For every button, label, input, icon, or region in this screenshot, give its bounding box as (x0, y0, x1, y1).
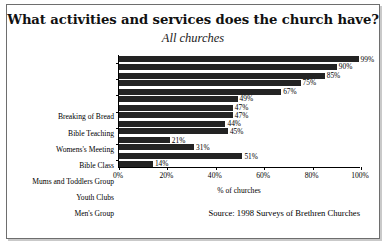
y-axis-label: Breaking of Bread (58, 113, 114, 121)
bar-value-label: 45% (230, 128, 244, 135)
x-axis-tick-label: 0% (113, 171, 123, 180)
x-axis-tick-label: 60% (256, 171, 270, 180)
bar (119, 121, 225, 127)
source-note: Source: 1998 Surveys of Brethren Churche… (208, 208, 360, 218)
bar-value-label: 99% (361, 56, 375, 63)
x-axis-tick (119, 167, 120, 170)
y-axis-label: Youth Clubs (76, 194, 114, 202)
bar (119, 80, 301, 86)
bar-value-label: 67% (283, 88, 297, 95)
x-axis-tick (361, 167, 362, 170)
x-axis-tick-label: 20% (159, 171, 173, 180)
bar-value-label: 85% (327, 72, 341, 79)
x-axis-tick (216, 167, 217, 170)
bar (119, 64, 337, 70)
y-axis-label: Mums and Toddlers Group (32, 178, 114, 186)
bar (119, 144, 194, 150)
chart-title: What activities and services does the ch… (0, 12, 386, 27)
y-axis-label: Bible Class (79, 162, 114, 170)
bar-value-label: 51% (244, 153, 258, 160)
bar (119, 153, 242, 159)
bar (119, 128, 228, 134)
x-axis-tick (264, 167, 265, 170)
bar (119, 105, 233, 111)
bar-value-label: 90% (339, 63, 353, 70)
bar (119, 96, 238, 102)
y-axis-label: Womens's Meeting (56, 146, 114, 154)
y-axis-label: Men's Group (74, 210, 114, 218)
bar (119, 112, 233, 118)
bar-value-label: 14% (155, 160, 169, 167)
bar (119, 137, 170, 143)
x-axis-tick-label: 40% (208, 171, 222, 180)
chart-subtitle: All churches (0, 31, 386, 46)
y-axis-category-labels: Breaking of BreadBible TeachingWomens's … (6, 55, 116, 168)
bar (119, 56, 359, 62)
bar-value-label: 49% (240, 95, 254, 102)
y-axis-label: Bible Teaching (68, 130, 114, 138)
x-axis-tick-label: 80% (305, 171, 319, 180)
bar (119, 89, 281, 95)
chart-figure: What activities and services does the ch… (0, 0, 386, 245)
bar (119, 73, 325, 79)
bar-value-label: 75% (303, 79, 317, 86)
x-axis-tick-label: 100% (351, 171, 369, 180)
bar-value-label: 47% (235, 112, 249, 119)
plot-area: 99%90%85%75%67%49%47%47%44%45%21%31%51%1… (118, 55, 360, 168)
x-axis-tick (313, 167, 314, 170)
x-axis-tick (167, 167, 168, 170)
x-axis-title: % of churches (118, 186, 360, 195)
bar-value-label: 21% (172, 137, 186, 144)
bar-value-label: 31% (196, 144, 210, 151)
bar (119, 161, 153, 167)
